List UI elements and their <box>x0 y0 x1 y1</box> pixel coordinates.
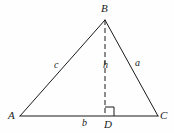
geometry-figure: A B C D c a b h <box>0 0 174 133</box>
vertex-label-d: D <box>104 119 112 130</box>
side-label-h: h <box>103 60 108 70</box>
side-label-a: a <box>135 58 140 68</box>
triangle-diagram-svg <box>0 0 174 133</box>
side-label-b: b <box>82 118 87 128</box>
side-label-c: c <box>54 60 58 70</box>
segment-bc-side-a <box>105 20 158 116</box>
vertex-label-a: A <box>8 110 15 121</box>
segment-ab-side-c <box>20 20 105 116</box>
right-angle-marker <box>105 107 114 116</box>
vertex-label-c: C <box>160 110 167 121</box>
vertex-label-b: B <box>101 3 108 14</box>
